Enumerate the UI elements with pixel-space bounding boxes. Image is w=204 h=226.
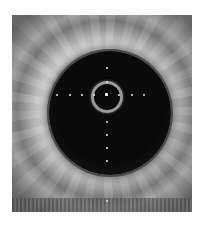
calibration-dot: [106, 81, 108, 83]
calibration-dot: [69, 94, 71, 96]
ultrasound-image: [12, 15, 192, 212]
calibration-dot: [106, 67, 108, 69]
calibration-dot: [106, 134, 108, 136]
calibration-dot: [93, 94, 95, 96]
calibration-dot: [143, 94, 145, 96]
calibration-dot: [106, 160, 108, 162]
image-bottom-noise-band: [12, 198, 192, 212]
calibration-dot: [56, 94, 58, 96]
calibration-dot: [106, 147, 108, 149]
center-dot: [105, 93, 108, 96]
catheter-ring: [91, 81, 123, 113]
calibration-dot: [118, 94, 120, 96]
calibration-dot: [81, 94, 83, 96]
calibration-dot: [106, 200, 108, 202]
vessel-lumen: [49, 51, 171, 175]
calibration-dot: [106, 121, 108, 123]
calibration-dot: [131, 94, 133, 96]
